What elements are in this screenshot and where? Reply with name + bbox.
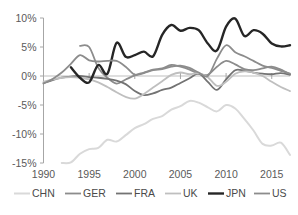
y-tick-label: -10% [12, 128, 37, 140]
x-tick-label: 2000 [123, 168, 147, 180]
x-axis-tick-labels: 199019952000200520102015 [32, 168, 284, 180]
y-tick-label: 10% [15, 12, 36, 24]
legend-label-ger: GER [83, 187, 106, 199]
chart-legend: CHNGERFRAUKJPNUS [14, 187, 287, 199]
legend-item-uk[interactable]: UK [165, 187, 198, 199]
legend-label-fra: FRA [134, 187, 155, 199]
series-lines [44, 18, 291, 163]
x-tick-label: 1990 [32, 168, 56, 180]
chart-canvas: 10%5%0%-5%-10%-15% 199019952000200520102… [0, 0, 298, 215]
x-tick-label: 2005 [169, 168, 193, 180]
legend-label-chn: CHN [32, 187, 55, 199]
y-tick-label: 5% [21, 41, 36, 53]
legend-item-fra[interactable]: FRA [116, 187, 155, 199]
y-tick-label: -15% [12, 157, 37, 169]
legend-item-us[interactable]: US [254, 187, 287, 199]
series-line-fra [44, 70, 291, 96]
legend-label-uk: UK [183, 187, 198, 199]
legend-label-us: US [272, 187, 287, 199]
y-tick-label: 0% [21, 70, 36, 82]
legend-item-ger[interactable]: GER [65, 187, 106, 199]
x-tick-label: 2010 [214, 168, 238, 180]
legend-label-jpn: JPN [226, 187, 246, 199]
x-tick-label: 2015 [260, 168, 284, 180]
line-chart: 10%5%0%-5%-10%-15% 199019952000200520102… [0, 0, 298, 215]
legend-item-jpn[interactable]: JPN [208, 187, 246, 199]
y-tick-label: -5% [18, 99, 37, 111]
y-axis-ticks [40, 18, 44, 163]
legend-item-chn[interactable]: CHN [14, 187, 55, 199]
x-tick-label: 1995 [77, 168, 101, 180]
y-axis-group: 10%5%0%-5%-10%-15% [12, 12, 44, 169]
y-axis-tick-labels: 10%5%0%-5%-10%-15% [12, 12, 37, 169]
series-line-chn [62, 101, 290, 163]
